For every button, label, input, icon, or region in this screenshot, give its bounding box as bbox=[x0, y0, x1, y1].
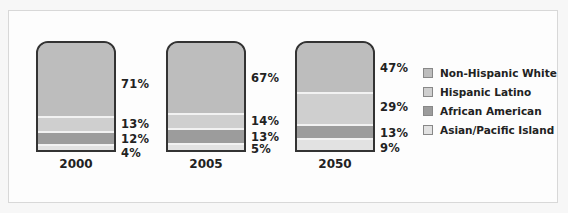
value-label: 71% bbox=[121, 78, 149, 90]
legend-item-non-hispanic-white: Non-Hispanic White bbox=[423, 63, 557, 82]
x-axis-label: 2050 bbox=[295, 157, 375, 171]
segment-non-hispanic-white bbox=[168, 43, 244, 115]
legend-swatch bbox=[423, 125, 433, 135]
legend-item-asian-pacific-island: Asian/Pacific Island bbox=[423, 120, 557, 139]
legend-item-african-american: African American bbox=[423, 101, 557, 120]
value-label: 47% bbox=[380, 62, 408, 74]
bar-2005 bbox=[166, 41, 246, 152]
legend-label: Asian/Pacific Island bbox=[440, 124, 554, 136]
segment-african-american bbox=[168, 130, 244, 144]
legend-label: African American bbox=[440, 105, 542, 117]
legend-swatch bbox=[423, 68, 433, 78]
segment-hispanic-latino bbox=[168, 115, 244, 130]
value-label: 9% bbox=[380, 142, 400, 154]
value-label: 5% bbox=[251, 143, 271, 155]
legend-swatch bbox=[423, 106, 433, 116]
legend-label: Hispanic Latino bbox=[440, 86, 531, 98]
segment-african-american bbox=[297, 126, 373, 140]
value-label: 4% bbox=[121, 147, 141, 159]
x-axis-label: 2005 bbox=[166, 157, 246, 171]
segment-non-hispanic-white bbox=[297, 43, 373, 94]
legend-item-hispanic-latino: Hispanic Latino bbox=[423, 82, 557, 101]
legend-swatch bbox=[423, 87, 433, 97]
segment-asian-pacific-island bbox=[297, 140, 373, 150]
chart-legend: Non-Hispanic White Hispanic Latino Afric… bbox=[423, 63, 557, 139]
segment-african-american bbox=[38, 133, 114, 146]
segment-asian-pacific-island bbox=[168, 145, 244, 150]
segment-hispanic-latino bbox=[38, 118, 114, 132]
value-label: 13% bbox=[121, 118, 149, 130]
legend-label: Non-Hispanic White bbox=[440, 67, 557, 79]
value-label: 12% bbox=[121, 133, 149, 145]
x-axis-label: 2000 bbox=[36, 157, 116, 171]
segment-non-hispanic-white bbox=[38, 43, 114, 118]
value-label: 13% bbox=[380, 127, 408, 139]
segment-asian-pacific-island bbox=[38, 146, 114, 150]
value-label: 67% bbox=[251, 72, 279, 84]
value-label: 14% bbox=[251, 115, 279, 127]
segment-hispanic-latino bbox=[297, 94, 373, 126]
value-label: 29% bbox=[380, 101, 408, 113]
bar-2000 bbox=[36, 41, 116, 152]
bar-2050 bbox=[295, 41, 375, 152]
